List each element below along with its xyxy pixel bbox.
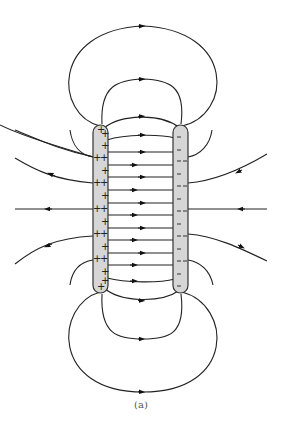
svg-text:+: + — [101, 190, 109, 201]
top-field-loops — [69, 26, 217, 128]
svg-text:+: + — [97, 281, 105, 292]
bottom-field-loops — [69, 288, 217, 392]
svg-text:+: + — [100, 228, 108, 239]
svg-text:+: + — [100, 203, 108, 214]
svg-text:+: + — [100, 253, 108, 264]
interior-field-lines — [107, 135, 175, 282]
svg-text:+: + — [101, 241, 109, 252]
svg-text:+: + — [100, 177, 108, 188]
svg-text:+: + — [100, 152, 108, 163]
svg-text:+: + — [101, 128, 109, 139]
svg-text:+: + — [101, 140, 109, 151]
right-exterior-field-lines — [188, 130, 267, 285]
svg-text:+: + — [101, 165, 109, 176]
figure-caption: (a) — [0, 399, 282, 410]
svg-text:+: + — [101, 216, 109, 227]
capacitor-field-diagram: + + + ++ + ++ + ++ + ++ + ++ + + + — [0, 0, 282, 433]
left-exterior-field-lines — [0, 125, 94, 264]
